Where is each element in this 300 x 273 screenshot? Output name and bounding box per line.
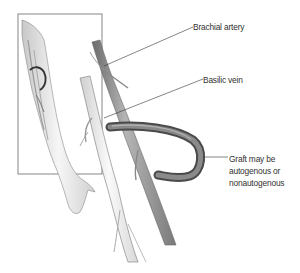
leader-lines — [104, 27, 228, 157]
label-graft: Graft may be autogenous or nonautogenous — [229, 153, 284, 189]
basilic-vein — [80, 76, 138, 262]
vessels — [80, 40, 176, 262]
label-graft-line1: Graft may be — [229, 153, 284, 165]
label-graft-line2: autogenous or — [229, 165, 284, 177]
illustration — [0, 0, 300, 273]
label-graft-line3: nonautogenous — [229, 177, 284, 189]
label-brachial-artery: Brachial artery — [193, 21, 244, 33]
label-basilic-vein: Basilic vein — [203, 74, 243, 86]
